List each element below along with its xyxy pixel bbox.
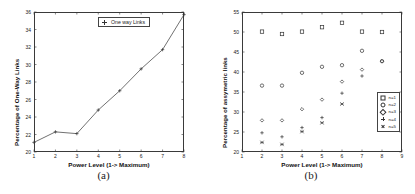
legend-entry: n=4	[381, 117, 396, 122]
x-tick-label: 6	[140, 154, 143, 159]
x-tick-label: 3	[281, 154, 284, 159]
y-tick-label: 40	[233, 70, 239, 75]
figure-container: 202224262830323436 12345678 Power Level …	[0, 0, 415, 194]
x-tick-label: 2	[261, 154, 264, 159]
x-tick-label: 7	[361, 154, 364, 159]
y-tick-label: 26	[25, 97, 31, 102]
plot-area-b: 2025303540455055 123456789 Power Level (…	[242, 12, 402, 152]
y-tick-label: 30	[233, 110, 239, 115]
x-tick-label: 7	[161, 154, 164, 159]
y-tick-label: 34	[25, 27, 31, 32]
caption-a: (a)	[0, 169, 207, 181]
y-tick-label: 45	[233, 50, 239, 55]
x-tick-label: 2	[54, 154, 57, 159]
legend-entry: n=1	[381, 95, 396, 100]
panel-a: 202224262830323436 12345678 Power Level …	[0, 0, 207, 194]
y-tick-label: 22	[25, 132, 31, 137]
y-tick-label: 20	[233, 150, 239, 155]
panel-b: 2025303540455055 123456789 Power Level (…	[207, 0, 415, 194]
y-axis-label-b: Percentage of assymetric links	[221, 57, 228, 148]
x-tick-label: 1	[241, 154, 244, 159]
legend-entry-label: n=4	[389, 117, 396, 122]
x-tick-label: 5	[321, 154, 324, 159]
legend-label-one-way-links: One way Links	[111, 19, 145, 25]
legend-marker-diamond-icon	[381, 109, 386, 114]
y-tick-label: 50	[233, 30, 239, 35]
plot-area-a: 202224262830323436 12345678 Power Level …	[34, 12, 184, 152]
legend-marker-square-icon	[381, 95, 386, 100]
legend-entry-label: n=2	[389, 102, 396, 107]
x-tick-label: 1	[33, 154, 36, 159]
x-axis-label-a: Power Level (1-> Maximum)	[68, 161, 149, 168]
y-tick-label: 36	[25, 10, 31, 15]
legend-entry: n=2	[381, 102, 396, 107]
x-tick-label: 3	[75, 154, 78, 159]
y-tick-label: 35	[233, 90, 239, 95]
legend-a: One way Links	[98, 17, 150, 27]
legend-b: n=1n=2n=3n=4n=5	[377, 92, 400, 132]
x-tick-label: 4	[301, 154, 304, 159]
legend-entry-label: n=1	[389, 95, 396, 100]
y-axis-label-a: Percentage of One-Way Links	[13, 59, 20, 146]
x-tick-label: 5	[118, 154, 121, 159]
x-tick-label: 8	[381, 154, 384, 159]
x-tick-label: 6	[341, 154, 344, 159]
legend-entry-label: n=5	[389, 124, 396, 129]
legend-marker-circle-icon	[381, 102, 386, 107]
legend-entry: n=5	[381, 124, 396, 129]
y-tick-label: 24	[25, 115, 31, 120]
legend-entry: n=3	[381, 109, 396, 114]
caption-b: (b)	[207, 169, 415, 181]
x-tick-label: 4	[97, 154, 100, 159]
legend-marker-star-icon	[381, 124, 386, 129]
y-tick-label: 30	[25, 62, 31, 67]
x-tick-label: 8	[183, 154, 186, 159]
legend-marker-plus-icon	[102, 20, 107, 25]
legend-marker-plus-icon	[381, 117, 386, 122]
x-tick-label: 9	[401, 154, 404, 159]
line-plot-a	[34, 12, 184, 152]
y-tick-label: 32	[25, 45, 31, 50]
legend-entry-label: n=3	[389, 109, 396, 114]
y-tick-label: 20	[25, 150, 31, 155]
y-tick-label: 55	[233, 10, 239, 15]
x-axis-label-b: Power Level (1-> Maximum)	[281, 161, 362, 168]
y-tick-label: 25	[233, 130, 239, 135]
y-tick-label: 28	[25, 80, 31, 85]
